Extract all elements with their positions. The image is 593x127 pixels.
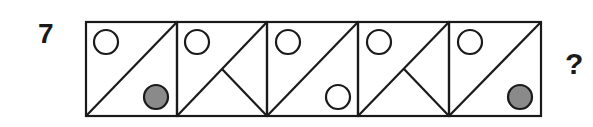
panel-strip bbox=[0, 0, 593, 127]
filled-circle-icon bbox=[508, 85, 532, 109]
panel-3 bbox=[267, 22, 358, 116]
panel-2 bbox=[177, 22, 267, 116]
open-circle-icon bbox=[276, 30, 300, 54]
panel-2-extra-line bbox=[222, 69, 267, 116]
open-circle-icon bbox=[94, 30, 118, 54]
panel-4-extra-line bbox=[404, 69, 449, 116]
open-circle-icon bbox=[185, 30, 209, 54]
panel-5 bbox=[449, 22, 541, 116]
filled-circle-icon bbox=[144, 85, 168, 109]
panel-1 bbox=[86, 22, 177, 116]
panel-4 bbox=[358, 22, 449, 116]
open-circle-icon bbox=[367, 30, 391, 54]
open-circle-icon bbox=[326, 85, 350, 109]
open-circle-icon bbox=[458, 30, 482, 54]
question-mark: ? bbox=[565, 47, 583, 81]
